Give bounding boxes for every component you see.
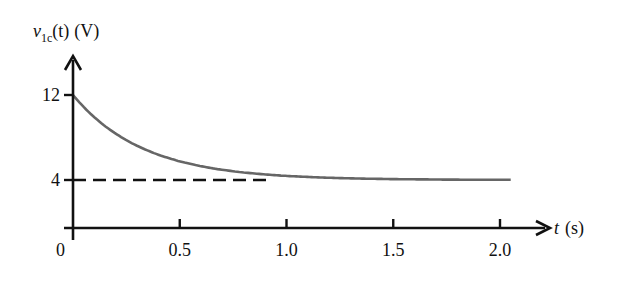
y-tick-label: 4: [51, 170, 60, 190]
y-label-var: v: [33, 21, 41, 41]
y-ticks: 412: [42, 85, 73, 190]
y-label-unit: (V): [74, 21, 99, 42]
x-axis-label: t(s): [554, 218, 584, 239]
x-tick-label: 1.0: [275, 240, 298, 260]
x-label-var: t: [554, 218, 560, 238]
voltage-curve: [73, 95, 511, 180]
chart: 0.51.01.52.0 412 0 v1c(t)(V) t(s): [0, 0, 618, 284]
origin-label: 0: [56, 240, 65, 260]
x-tick-label: 2.0: [489, 240, 512, 260]
x-tick-label: 1.5: [382, 240, 405, 260]
y-tick-label: 12: [42, 85, 60, 105]
plot-area: [73, 95, 511, 180]
x-label-unit: (s): [565, 218, 584, 239]
x-tick-label: 0.5: [169, 240, 192, 260]
x-ticks: 0.51.01.52.0: [169, 219, 512, 260]
y-label-sub: 1c: [41, 31, 52, 45]
y-label-arg: (t): [52, 21, 69, 42]
y-axis-label: v1c(t)(V): [33, 21, 99, 45]
